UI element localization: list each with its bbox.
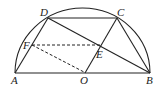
segment-FO-dashed [32,45,84,72]
label-D: D [39,6,48,18]
segment-CB [117,18,150,73]
geometry-diagram: D C F E A O B [0,0,160,89]
label-E: E [95,48,103,60]
label-C: C [117,6,125,18]
label-B: B [146,74,153,86]
label-A: A [10,74,18,86]
label-O: O [80,74,88,86]
label-F: F [22,39,30,51]
